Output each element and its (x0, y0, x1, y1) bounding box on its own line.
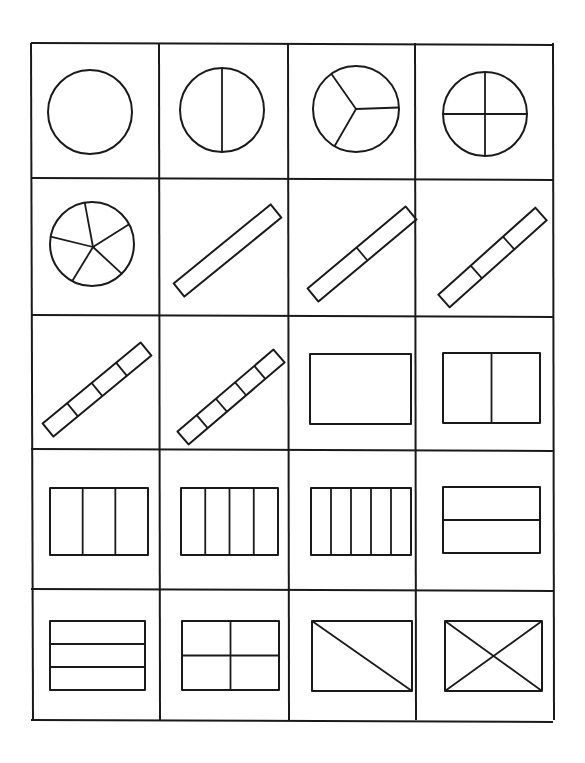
radius-line (356, 107, 399, 109)
cell-r4-c3-rectangle-4-parts (445, 621, 542, 691)
radius-line (93, 224, 129, 247)
grid-vertical-line (31, 43, 33, 720)
cell-r0-c0-circle-1-parts (48, 70, 132, 154)
rectangle-outline (311, 488, 411, 555)
divider-line (357, 247, 368, 260)
cell-r2-c2-rectangle-1-parts (310, 354, 411, 424)
rectangle-outline (50, 488, 148, 555)
cell-r2-c3-rectangle-2-parts (443, 353, 540, 423)
cell-r1-c2-diagonal-bar-2-parts (308, 206, 417, 301)
grid-horizontal-line (31, 43, 553, 45)
rectangle-outline (50, 621, 145, 690)
cell-r4-c1-rectangle-4-parts (182, 621, 279, 690)
grid-horizontal-line (31, 178, 553, 180)
cell-r4-c0-rectangle-3-parts (50, 621, 145, 690)
diagonal-line (312, 621, 412, 691)
shape-cells (43, 66, 547, 691)
divider-line (503, 237, 514, 250)
cell-r4-c2-rectangle-2-parts (312, 621, 412, 691)
divider-line (216, 399, 227, 412)
cell-r3-c3-rectangle-2-parts (443, 487, 540, 553)
grid-horizontal-line (31, 449, 553, 451)
cell-r1-c1-diagonal-bar-1-parts (174, 204, 282, 296)
cell-r3-c2-rectangle-5-parts (311, 488, 411, 555)
cell-r0-c2-circle-3-parts (313, 66, 399, 152)
fraction-shapes-worksheet (0, 0, 585, 763)
divider-line (116, 363, 127, 376)
rectangle-outline (310, 354, 411, 424)
divider-line (254, 366, 265, 379)
grid-vertical-line (159, 43, 160, 720)
cell-r1-c3-diagonal-bar-3-parts (438, 208, 546, 308)
grid-horizontal-line (31, 589, 553, 591)
radius-line (331, 74, 356, 109)
radius-line (51, 237, 93, 247)
bar-outline (174, 204, 282, 296)
cell-r0-c3-circle-4-parts (443, 72, 527, 156)
divider-line (235, 382, 246, 395)
divider-line (92, 383, 103, 396)
cell-r2-c0-diagonal-bar-4-parts (43, 342, 152, 436)
radius-line (335, 109, 357, 146)
cell-r2-c1-diagonal-bar-5-parts (177, 350, 284, 445)
cell-r0-c1-circle-2-parts (180, 68, 264, 152)
radius-line (93, 247, 122, 274)
radius-line (85, 203, 93, 247)
divider-line (471, 266, 482, 279)
cell-r3-c1-rectangle-4-parts (181, 488, 278, 555)
shapes-grid-canvas (0, 0, 585, 763)
grid-vertical-line (415, 43, 416, 720)
bar-outline (438, 208, 546, 308)
cell-r3-c0-rectangle-3-parts (50, 488, 148, 555)
divider-line (197, 415, 208, 428)
bar-outline (177, 350, 284, 445)
grid-horizontal-line (31, 720, 553, 722)
grid-vertical-line (288, 43, 289, 720)
grid-vertical-line (553, 43, 554, 720)
grid-horizontal-line (31, 315, 553, 317)
circle-outline (48, 70, 132, 154)
radius-line (72, 247, 93, 281)
divider-line (67, 403, 78, 416)
cell-r1-c0-circle-5-parts (50, 202, 134, 286)
